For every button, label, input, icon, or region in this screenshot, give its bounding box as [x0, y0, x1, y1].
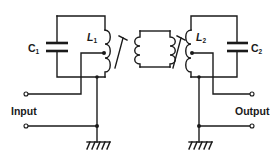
left-tank-circuit	[24, 16, 127, 149]
left-tank-top-wire	[57, 16, 105, 30]
right-tank-circuit	[173, 16, 254, 149]
input-label: Input	[11, 105, 37, 117]
output-label: Output	[235, 105, 270, 117]
input-terminal-bottom	[24, 124, 28, 128]
right-tank-junction-dot	[197, 75, 201, 79]
output-top-wire	[192, 53, 250, 94]
left-tank-junction-dot	[95, 75, 99, 79]
input-top-wire	[28, 53, 104, 94]
circuit-diagram: C1 L1 L2 C2 Input Output	[0, 0, 280, 163]
output-terminal-bottom	[250, 124, 254, 128]
l1-core-slash	[115, 38, 123, 68]
c2-label: C2	[251, 42, 263, 55]
l1-label: L1	[87, 31, 97, 44]
link-left-coil-icon	[135, 31, 140, 67]
c1-label: C1	[28, 42, 40, 55]
input-terminal-top	[24, 92, 28, 96]
ground-icon	[189, 126, 212, 149]
c2-lower-lead	[191, 51, 237, 77]
ground-icon	[87, 126, 110, 149]
coupling-link	[135, 31, 176, 67]
output-terminal-top	[250, 92, 254, 96]
l2-label: L2	[196, 31, 206, 44]
